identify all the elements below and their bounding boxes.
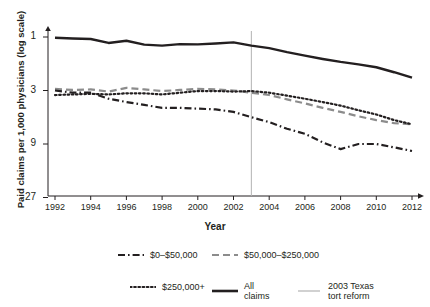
x-axis-title: Year (160, 221, 270, 232)
legend-item-label: $250,000+ (162, 282, 205, 292)
x-axis-tick-label: 2002 (214, 202, 254, 212)
x-axis-arrow (418, 193, 424, 199)
data-series-layer (55, 38, 412, 151)
legend-item-label-line2: claims (244, 291, 270, 301)
legend-swatch-dashed (212, 249, 238, 261)
legend-item-label: $0–$50,000 (150, 250, 198, 260)
y-axis-tick-label: 1 (10, 30, 36, 41)
legend-item[interactable]: $250,000+ (130, 281, 205, 293)
legend-item[interactable]: $0–$50,000 (118, 249, 198, 261)
legend-swatch-dotted (130, 281, 156, 293)
x-axis-tick-label: 1998 (142, 202, 182, 212)
legend-swatch-vline (296, 285, 322, 297)
y-axis-ticks (43, 37, 48, 198)
legend-item-label: 2003 Texastort reform (328, 281, 374, 301)
y-axis-arrow (45, 26, 51, 31)
series-line (55, 88, 412, 124)
x-axis-tick-label: 2008 (321, 202, 361, 212)
x-axis-tick-label: 2000 (178, 202, 218, 212)
y-axis-tick-label: 27 (10, 191, 36, 202)
series-line (55, 91, 412, 151)
legend-swatch-solid (212, 285, 238, 297)
x-axis-tick-label: 1996 (106, 202, 146, 212)
legend-item-label-line2: tort reform (328, 291, 374, 301)
x-axis-tick-label: 2012 (392, 202, 430, 212)
y-axis-tick-label: 3 (10, 84, 36, 95)
chart-figure: Paid claims per 1,000 physicians (log sc… (0, 0, 430, 307)
legend-item-label: $50,000–$250,000 (244, 250, 319, 260)
legend-item[interactable]: 2003 Texastort reform (296, 281, 374, 301)
legend-item-label: Allclaims (244, 281, 270, 301)
legend-item[interactable]: $50,000–$250,000 (212, 249, 319, 261)
series-line (55, 38, 412, 78)
x-axis-ticks (55, 196, 412, 200)
legend-item[interactable]: Allclaims (212, 281, 270, 301)
legend-item-label-line1: All (244, 281, 270, 291)
x-axis-tick-label: 2004 (249, 202, 289, 212)
x-axis-tick-label: 1994 (71, 202, 111, 212)
x-axis-tick-label: 2010 (356, 202, 396, 212)
series-line (55, 91, 412, 124)
legend-swatch-dashdot (118, 249, 144, 261)
x-axis-tick-label: 1992 (35, 202, 75, 212)
legend-item-label-line1: 2003 Texas (328, 281, 374, 291)
y-axis-tick-label: 9 (10, 137, 36, 148)
x-axis-tick-label: 2006 (285, 202, 325, 212)
